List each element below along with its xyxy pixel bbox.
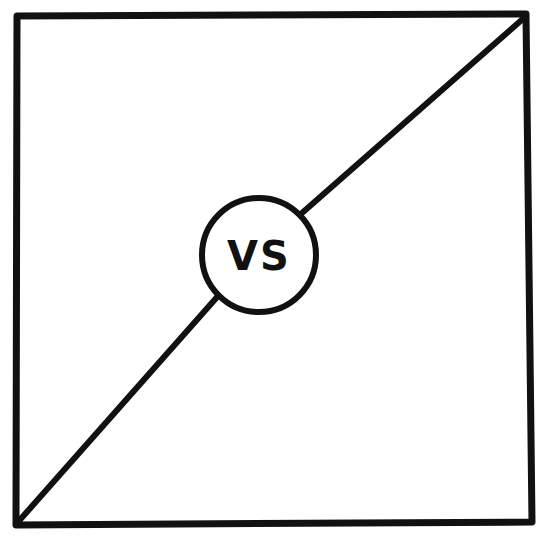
diagonal-divider-lower xyxy=(18,296,218,522)
versus-diagram: VS xyxy=(0,0,553,545)
vs-label: VS xyxy=(227,233,291,279)
diagonal-divider-upper xyxy=(302,17,525,213)
